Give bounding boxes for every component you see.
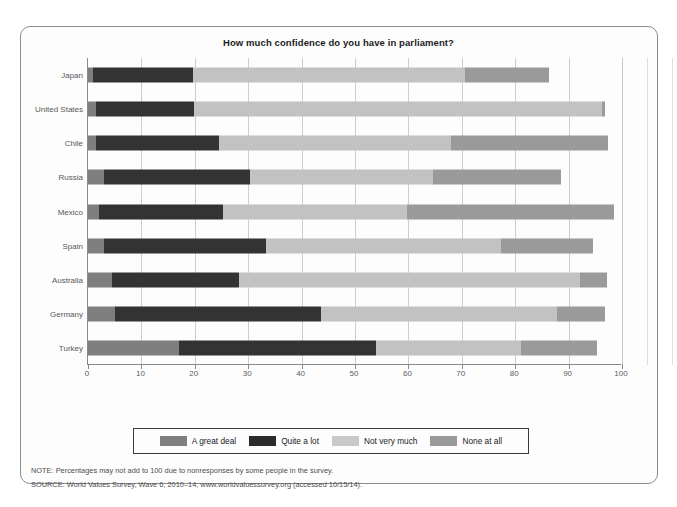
bar-segment [223,204,407,219]
stacked-bar [88,68,549,83]
footnotes: NOTE: Percentages may not add to 100 due… [31,464,631,491]
axis-tick-label: 0 [85,369,89,378]
bar-segment [88,170,104,185]
category-axis-labels: JapanUnited StatesChileRussiaMexicoSpain… [28,58,87,365]
bar-segment [219,136,451,151]
legend-swatch-a-great-deal [160,436,187,446]
axis-tick [141,364,142,369]
bar-segment [93,68,192,83]
bar-segment [580,272,607,287]
stacked-bar [88,170,561,185]
bar-segment [501,238,593,253]
legend-label: Not very much [364,436,417,446]
axis-tick [569,364,570,369]
bar-segment [250,170,433,185]
bar-segment [115,306,321,321]
chart-title: How much confidence do you have in parli… [0,37,677,48]
stacked-bar [88,238,593,253]
bar-segment [179,340,377,355]
axis-tick-label: 60 [403,369,412,378]
bar-segment [88,102,96,117]
footnote-source: SOURCE: World Values Survey, Wave 6, 201… [31,478,631,492]
legend-item: None at all [430,436,502,446]
bar-segment [266,238,501,253]
category-label: Turkey [59,343,83,352]
stacked-bar [88,102,605,117]
axis-tick [195,364,196,369]
footnote-note: NOTE: Percentages may not add to 100 due… [31,464,631,478]
plot-area [87,58,621,365]
legend-swatch-none-at-all [430,436,457,446]
category-label: Chile [65,139,83,148]
bar-segment [88,204,99,219]
bar-segment [112,272,239,287]
axis-tick-label: 100 [614,369,627,378]
bar-segment [194,102,602,117]
axis-tick [622,364,623,369]
stacked-bar [88,272,607,287]
bar-segment [376,340,520,355]
bar-segment [557,306,605,321]
chart-legend: A great deal Quite a lot Not very much N… [133,428,529,454]
category-label: Spain [63,241,83,250]
bar-segment [239,272,581,287]
category-label: Japan [61,71,83,80]
bar-segment [465,68,549,83]
legend-label: None at all [462,436,502,446]
legend-swatch-quite-a-lot [249,436,276,446]
bar-segment [193,68,465,83]
category-label: Russia [59,173,83,182]
plot-area-wrapper: JapanUnited StatesChileRussiaMexicoSpain… [28,58,646,388]
bar-segment [104,170,250,185]
outer-gridline [672,58,673,365]
axis-tick-label: 70 [456,369,465,378]
axis-tick-label: 80 [510,369,519,378]
axis-tick [408,364,409,369]
bar-segment [321,306,558,321]
axis-tick-label: 10 [136,369,145,378]
axis-tick [462,364,463,369]
gridline [622,58,623,364]
stacked-bar [88,136,608,151]
bar-segment [104,238,266,253]
bar-segment [433,170,561,185]
axis-tick [248,364,249,369]
axis-tick [88,364,89,369]
legend-label: A great deal [192,436,236,446]
bar-segment [88,306,115,321]
axis-tick-label: 30 [243,369,252,378]
axis-tick [302,364,303,369]
legend-label: Quite a lot [281,436,319,446]
bar-segment [88,238,104,253]
bar-segment [88,272,112,287]
axis-tick-label: 40 [296,369,305,378]
stacked-bar [88,306,605,321]
bar-segment [88,136,96,151]
bar-segment [407,204,614,219]
bar-segment [96,136,219,151]
bar-segment [521,340,597,355]
axis-tick-label: 90 [563,369,572,378]
category-label: Germany [50,309,83,318]
legend-item: A great deal [160,436,236,446]
category-label: United States [35,105,83,114]
outer-gridline [647,58,648,365]
legend-item: Not very much [332,436,417,446]
axis-tick [355,364,356,369]
value-axis-labels: 0102030405060708090100 [87,369,621,385]
stacked-bar [88,340,597,355]
axis-tick-label: 50 [350,369,359,378]
legend-swatch-not-very-much [332,436,359,446]
stacked-bar [88,204,614,219]
bar-segment [96,102,194,117]
axis-tick-label: 20 [189,369,198,378]
legend-item: Quite a lot [249,436,319,446]
bar-segment [602,102,605,117]
category-label: Australia [52,275,83,284]
chart-page: How much confidence do you have in parli… [0,0,677,507]
bar-segment [88,340,179,355]
bar-segment [99,204,223,219]
bar-segment [451,136,608,151]
category-label: Mexico [58,207,83,216]
axis-tick [515,364,516,369]
